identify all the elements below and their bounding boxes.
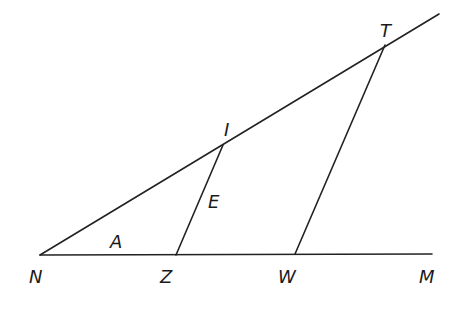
geometry-diagram: N Z W M I T A E [0,0,468,311]
point-label-t: T [380,20,393,41]
point-label-w: W [278,266,297,287]
point-label-n: N [29,266,42,287]
diagram-figure: N Z W M I T A E [0,0,468,311]
line-NM [40,254,432,255]
region-label-e: E [208,191,220,212]
point-label-m: M [419,266,435,287]
region-label-a: A [109,231,122,252]
point-label-z: Z [159,266,173,287]
ray-NT [40,14,439,255]
point-label-i: I [224,119,229,140]
segment-WT [295,45,385,254]
